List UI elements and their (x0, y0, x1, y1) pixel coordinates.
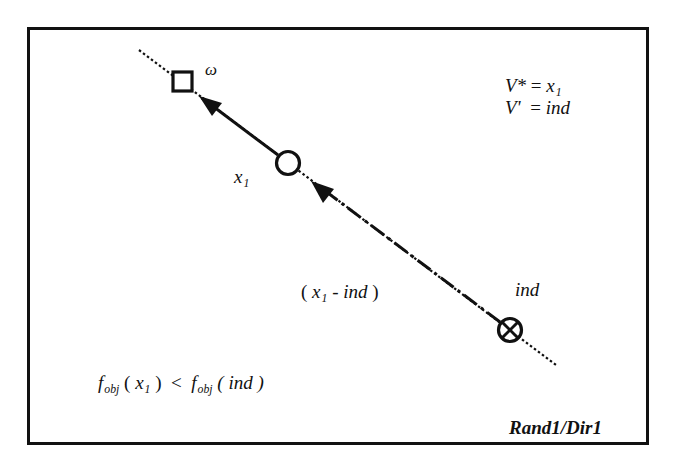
condition-inequality: fobj ( x1 ) < fobj ( ind ) (98, 373, 264, 392)
f-symbol: f (98, 372, 103, 393)
paren-close: ) (155, 372, 161, 393)
minus-ind: - ind (332, 281, 367, 302)
ind-arg: ( ind ) (217, 372, 263, 393)
equals: = (530, 97, 541, 118)
x-base: x (135, 372, 143, 393)
x1-label: x1 (234, 167, 249, 186)
circle-node-icon (277, 152, 300, 175)
ind-label: ind (515, 280, 539, 299)
diagram-canvas (0, 0, 678, 475)
arrowhead-icon (199, 96, 222, 116)
arrowhead-icon (311, 181, 334, 203)
x-base: x (234, 166, 242, 187)
omega-symbol: ω (205, 60, 217, 79)
legend-line-1: V* = x1 (505, 76, 562, 95)
v-star: V* (505, 75, 526, 96)
x-sub: 1 (243, 177, 249, 190)
obj-sub: obj (104, 383, 119, 396)
paren-open: ( (124, 372, 130, 393)
diagram-title: Rand1/Dir1 (509, 418, 602, 437)
ind-text: ind (546, 97, 570, 118)
circle-cross-node-icon (499, 319, 522, 342)
square-node-icon (173, 72, 192, 91)
paren-open: ( (301, 281, 307, 302)
f-symbol: f (191, 372, 196, 393)
ind-text: ind (515, 279, 539, 300)
obj-sub: obj (198, 383, 213, 396)
equals: = (531, 75, 542, 96)
legend-line-2: V' = ind (505, 98, 570, 117)
x-sub: 1 (322, 292, 328, 305)
difference-label: ( x1 - ind ) (301, 282, 379, 301)
less-than: < (171, 372, 182, 393)
x-sub: 1 (145, 383, 151, 396)
omega-label: ω (205, 61, 217, 78)
title-text: Rand1/Dir1 (509, 417, 602, 438)
paren-close: ) (372, 281, 378, 302)
x-base: x (546, 75, 554, 96)
v-prime: V' (505, 97, 521, 118)
x-base: x (312, 281, 320, 302)
